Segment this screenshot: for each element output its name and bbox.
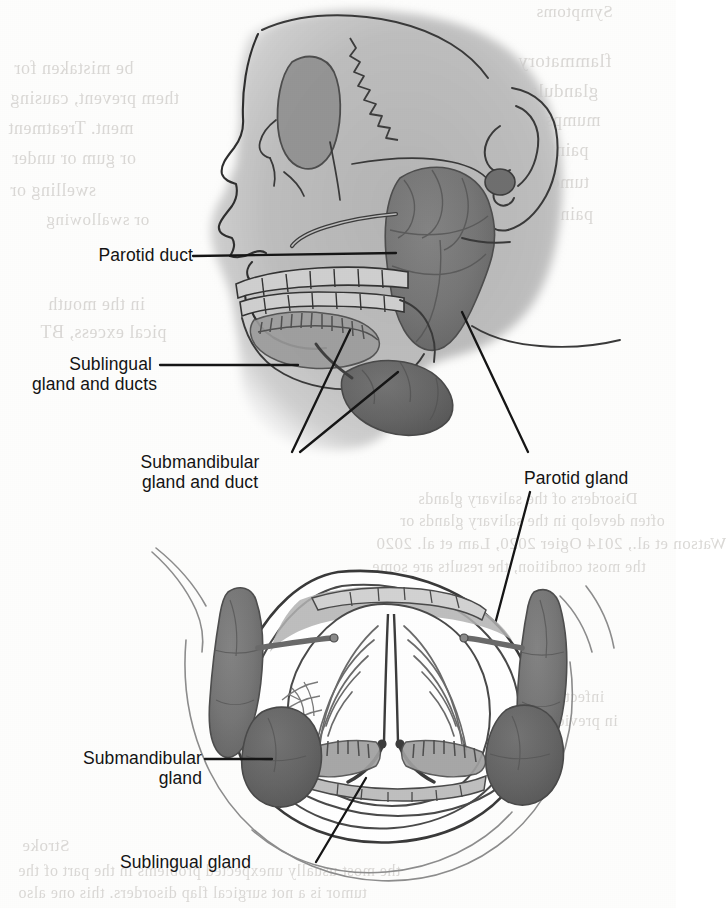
- anterior-mouth-view: [152, 548, 614, 881]
- label-sublingual-line2: gland and ducts: [0, 374, 157, 394]
- leader-parotid-gland-lower: [494, 492, 530, 628]
- parotid-duct-orifice-right: [460, 634, 468, 642]
- mandibular-condyle: [485, 169, 515, 195]
- label-submandibular-gland-line2: gland: [20, 768, 202, 788]
- label-sublingual-gland: Sublingual gland: [120, 852, 251, 872]
- label-submandibular-line2: gland and duct: [110, 472, 290, 492]
- parotid-duct-orifice-left: [330, 634, 338, 642]
- label-submandibular-gland-line1: Submandibular: [20, 748, 202, 768]
- label-parotid-gland: Parotid gland: [524, 468, 628, 488]
- orbit: [278, 57, 341, 169]
- label-parotid-duct: Parotid duct: [18, 245, 193, 265]
- label-submandibular-line1: Submandibular: [110, 452, 290, 472]
- submandibular-gland-anterior-right: [486, 705, 564, 805]
- label-sublingual-line1: Sublingual: [0, 354, 152, 374]
- submandibular-gland-anterior-left: [242, 707, 322, 807]
- lateral-head-view: [211, 10, 620, 450]
